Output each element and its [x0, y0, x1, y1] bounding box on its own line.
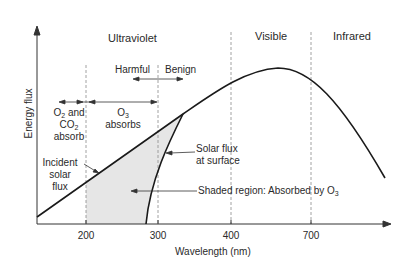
- benign-label: Benign: [165, 64, 196, 76]
- tick-700: 700: [299, 230, 323, 242]
- ultraviolet-label: Ultraviolet: [108, 32, 157, 44]
- surface-flux-label: Solar flux at surface: [196, 143, 240, 167]
- x-axis-label: Wavelength (nm): [175, 246, 251, 258]
- infrared-label: Infrared: [333, 30, 371, 42]
- tick-300: 300: [146, 230, 170, 242]
- tick-400: 400: [219, 230, 243, 242]
- shaded-region-label: Shaded region: Absorbed by O3: [198, 185, 339, 197]
- harmful-label: Harmful: [115, 64, 150, 76]
- o2-co2-label: O2 and CO2 absorb: [50, 107, 88, 143]
- incident-flux-label: Incident solar flux: [40, 157, 80, 193]
- visible-label: Visible: [255, 30, 287, 42]
- o3-absorbs-label: O3 absorbs: [100, 107, 146, 131]
- tick-200: 200: [74, 230, 98, 242]
- y-axis-label: Energy flux: [23, 84, 34, 144]
